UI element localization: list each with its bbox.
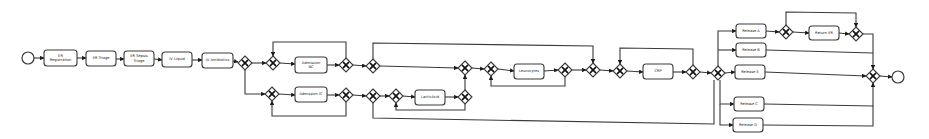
sequence-flow [498, 69, 514, 71]
task-release-d[interactable]: Release D [733, 118, 763, 132]
sequence-flow [764, 83, 873, 106]
task-label: LacticAcid [421, 95, 439, 99]
task-leucocytes[interactable]: Leucocytes [514, 64, 544, 79]
sequence-flow [720, 80, 734, 104]
exclusive-gateway[interactable] [686, 65, 700, 79]
task-er-triage[interactable]: ER Triage [86, 51, 116, 66]
sequence-flow [763, 106, 873, 126]
exclusive-gateway[interactable] [866, 69, 880, 83]
exclusive-gateway[interactable] [339, 58, 353, 72]
sequence-flow [272, 101, 346, 116]
sequence-flow [766, 50, 873, 53]
sequence-flow [233, 61, 238, 62]
sequence-flow [620, 48, 693, 65]
sequence-flow [600, 70, 613, 71]
task-label: ER Triage [93, 56, 111, 60]
sequence-flow [766, 31, 779, 32]
sequence-flow [718, 31, 736, 66]
task-label: Leucocytes [519, 69, 539, 73]
task-admission-nc[interactable]: AdmissionNC [295, 57, 327, 73]
task-release-a[interactable]: Release A [736, 24, 766, 38]
task-label: IV Antibiotics [206, 58, 230, 62]
task-iv-antibiotics[interactable]: IV Antibiotics [202, 53, 233, 68]
sequence-flow [154, 59, 162, 60]
task-iv-liquid[interactable]: IV Liquid [162, 52, 192, 67]
sequence-flow [793, 32, 809, 33]
exclusive-gateway[interactable] [484, 62, 498, 76]
process-diagram: ERRegistrationER TriageER SepsisTriageIV… [0, 0, 929, 139]
task-release-b[interactable]: Release B [736, 43, 766, 57]
task-label: CRP [654, 69, 662, 73]
exclusive-gateway[interactable] [711, 66, 725, 80]
sequence-flow [472, 68, 484, 69]
exclusive-gateway[interactable] [558, 63, 572, 77]
task-er-registration[interactable]: ERRegistration [44, 50, 77, 66]
task-label: NC [308, 65, 314, 69]
exclusive-gateway[interactable] [849, 27, 863, 41]
task-release-e[interactable]: Release E [735, 65, 765, 79]
task-label: Triage [133, 59, 146, 63]
sequence-flow [353, 65, 366, 66]
exclusive-gateway[interactable] [586, 63, 600, 77]
task-label: Admission IC [299, 92, 323, 96]
exclusive-gateway[interactable] [779, 25, 793, 39]
sequence-flow [839, 33, 849, 34]
task-lacticacid[interactable]: LacticAcid [415, 90, 445, 105]
sequence-flow [880, 76, 892, 77]
task-label: IV Liquid [169, 57, 185, 61]
task-admission-ic[interactable]: Admission IC [295, 87, 327, 102]
start-event-icon[interactable] [22, 52, 34, 64]
sequence-flow [786, 12, 856, 27]
task-crp[interactable]: CRP [643, 64, 673, 79]
exclusive-gateway[interactable] [389, 89, 403, 103]
exclusive-gateway[interactable] [266, 56, 280, 70]
task-label: Registration [50, 58, 72, 62]
sequence-flow [245, 70, 265, 94]
task-return-er[interactable]: Return ER [809, 26, 839, 40]
sequence-flow [279, 94, 295, 95]
exclusive-gateway[interactable] [339, 88, 353, 102]
task-label: Return ER [815, 31, 833, 35]
sequence-flow [403, 96, 415, 97]
sequence-flow [863, 34, 873, 69]
sequence-flow [544, 70, 558, 71]
task-label: Release E [741, 70, 759, 74]
sequence-flow [627, 71, 643, 72]
sequence-flow [273, 42, 346, 58]
sequence-flow [700, 72, 711, 73]
task-label: Release A [742, 29, 760, 33]
sequence-flow [373, 43, 593, 63]
exclusive-gateway[interactable] [366, 89, 380, 103]
task-label: Release B [742, 48, 760, 52]
sequence-flow [725, 72, 735, 73]
exclusive-gateway[interactable] [265, 87, 279, 101]
sequence-flow [353, 95, 366, 96]
exclusive-gateway[interactable] [613, 64, 627, 78]
sequence-flow [380, 66, 458, 68]
exclusive-gateway[interactable] [458, 90, 472, 104]
task-label: Release C [740, 102, 758, 106]
sequence-flow [280, 63, 295, 64]
task-label: Release D [739, 123, 757, 127]
end-event-icon[interactable] [892, 71, 904, 83]
task-release-c[interactable]: Release C [734, 97, 764, 111]
task-er-sepsis-triage[interactable]: ER SepsisTriage [124, 51, 154, 66]
sequence-flow [765, 72, 866, 76]
exclusive-gateway[interactable] [238, 56, 252, 70]
exclusive-gateway[interactable] [458, 61, 472, 75]
exclusive-gateway[interactable] [366, 59, 380, 73]
sequence-flow [720, 104, 733, 125]
